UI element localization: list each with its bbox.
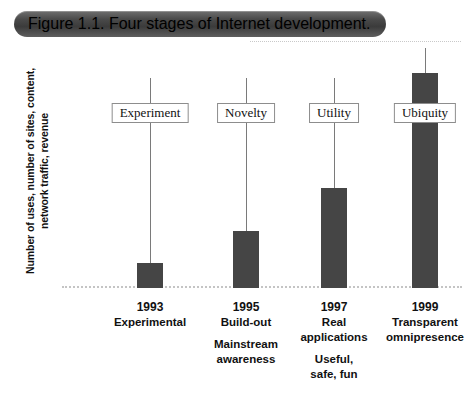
bar-1995[interactable]	[233, 231, 259, 288]
stage-label-experiment: Experiment	[112, 103, 189, 123]
y-axis-label-line-1: Number of uses, number of sites, content…	[23, 68, 37, 274]
caption-line: Experimental	[95, 315, 205, 330]
top-dotted-rule	[250, 41, 461, 42]
baseline-axis	[62, 286, 462, 288]
bar-1993[interactable]	[137, 263, 163, 288]
caption-line: Useful,	[279, 352, 389, 367]
stage-label-novelty: Novelty	[217, 103, 275, 123]
caption-1999: 1999Transparentomnipresence	[370, 300, 469, 345]
y-axis-label: Number of uses, number of sites, content…	[14, 60, 60, 282]
chart-plot-area: ExperimentNoveltyUtilityUbiquity	[62, 48, 462, 288]
stage-captions: 1993Experimental1995Build-outMainstreama…	[62, 300, 462, 392]
caption-year-1999: 1999	[370, 300, 469, 315]
figure-title-banner: Figure 1.1. Four stages of Internet deve…	[14, 11, 386, 37]
stage-label-utility: Utility	[309, 103, 359, 123]
y-axis-label-line-2: network traffic, revenue	[37, 68, 51, 274]
bar-1997[interactable]	[321, 188, 347, 288]
caption-line: safe, fun	[279, 367, 389, 382]
figure-title-text: Figure 1.1. Four stages of Internet deve…	[28, 15, 370, 33]
caption-line: Transparent	[370, 315, 469, 330]
caption-line: omnipresence	[370, 330, 469, 345]
stage-label-ubiquity: Ubiquity	[394, 103, 456, 123]
caption-year-1993: 1993	[95, 300, 205, 315]
caption-gap	[279, 345, 389, 352]
caption-1993: 1993Experimental	[95, 300, 205, 330]
